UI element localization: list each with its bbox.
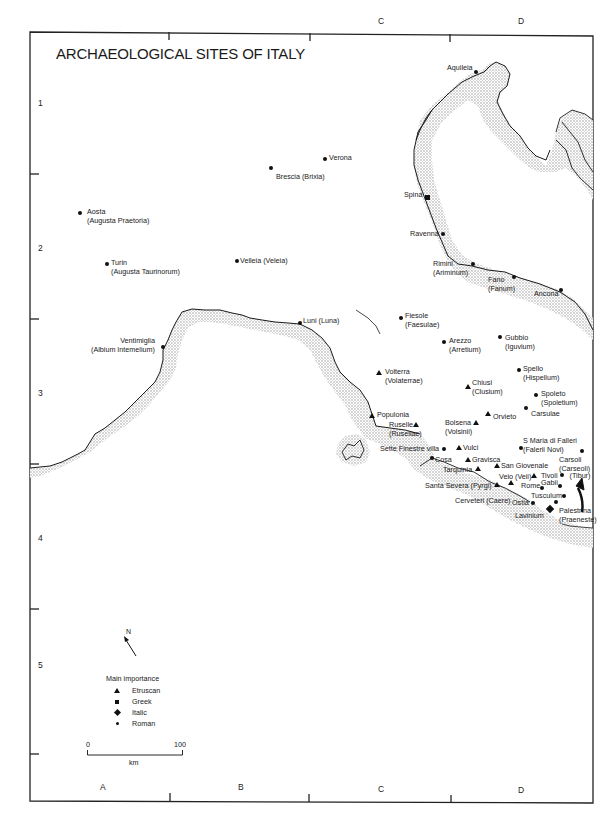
site-ancient-name: (Ariminum) (433, 268, 468, 277)
roman-dot-icon (235, 259, 239, 263)
site-name: Volterra (385, 367, 423, 376)
site-name: Ruselle (389, 420, 422, 429)
site-label: Santa Severa (Pyrgi) (425, 481, 492, 490)
roman-dot-icon (441, 232, 445, 236)
site-label: Rome (521, 481, 540, 490)
site-label: Verona (329, 153, 352, 162)
grid-column-label: A (100, 782, 106, 792)
site-label: Turin(Augusta Taurinorum) (111, 258, 180, 276)
site-name: Spello (523, 364, 559, 373)
site-ancient-name: (Volsinii) (445, 427, 472, 436)
site-name: Vulci (463, 443, 478, 452)
site-label: Spoleto(Spoletium) (541, 389, 578, 407)
site-label: Sette Finestre villa (380, 444, 439, 453)
map-canvas (0, 0, 616, 832)
site-label: Ruselle(Rusellae) (389, 420, 422, 438)
legend-label: Roman (132, 719, 155, 728)
scale-unit: km (129, 758, 139, 767)
site-ancient-name: (Falerii Novi) (523, 445, 577, 454)
site-name: Carsoli (559, 455, 590, 464)
site-label: Ostia (512, 498, 529, 507)
site-ancient-name: (Praeneste) (559, 515, 597, 524)
site-label: Gubbio(Iguvium) (505, 333, 535, 351)
roman-dot-icon (78, 211, 82, 215)
site-ancient-name: (Hispellum) (523, 373, 559, 382)
grid-row-label: 3 (38, 388, 43, 398)
site-ancient-name: (Arretium) (449, 345, 481, 354)
site-name: Ventimiglia (91, 336, 155, 345)
roman-dot-icon (442, 340, 446, 344)
site-name: Tarquinia (443, 465, 472, 474)
site-name: Velleia (Veleia) (240, 256, 288, 265)
grid-column-label: B (238, 782, 244, 792)
scale-end: 100 (174, 740, 186, 749)
roman-dot-icon (562, 494, 566, 498)
site-label: Chiusi(Clusium) (472, 378, 503, 396)
site-name: Rome (521, 481, 540, 490)
etruscan-triangle-icon (508, 480, 514, 485)
legend-label: Greek (132, 697, 152, 706)
site-label: Carsulae (531, 409, 560, 418)
site-name: Ostia (512, 498, 529, 507)
etruscan-triangle-icon (473, 420, 479, 425)
site-label: San Giovenale (501, 461, 548, 470)
north-arrow-icon (120, 632, 144, 662)
site-name: Ancona (534, 289, 558, 298)
site-name: Aquileia (447, 63, 473, 72)
site-label: Vulci (463, 443, 478, 452)
roman-dot-icon (399, 316, 403, 320)
site-name: Palestrina (559, 506, 597, 515)
roman-dot-icon (161, 345, 165, 349)
site-name: Bolsena (445, 418, 472, 427)
roman-dot-icon (580, 449, 584, 453)
etruscan-triangle-icon (475, 466, 481, 471)
site-ancient-name: (Rusellae) (389, 429, 422, 438)
site-ancient-name: (Faesulae) (405, 320, 439, 329)
site-label: Arezzo(Arretium) (449, 336, 481, 354)
site-label: Veio (Veii) (499, 472, 531, 481)
site-name: Ravenna (410, 229, 439, 238)
roman-dot-icon (474, 70, 478, 74)
roman-dot-icon (323, 157, 327, 161)
site-label: Ancona (534, 289, 558, 298)
site-label: Cerveteri (Caere) (455, 496, 511, 505)
roman-dot-icon (498, 335, 502, 339)
site-name: Cosa (435, 455, 452, 464)
roman-dot-icon (442, 447, 446, 451)
site-ancient-name: (Augusta Praetoria) (87, 216, 149, 225)
roman-dot-icon (531, 501, 535, 505)
site-label: Bolsena(Volsinii) (445, 418, 472, 436)
site-ancient-name: (Fanum) (488, 284, 515, 293)
site-name: Lavinium (515, 511, 544, 520)
site-ancient-name: (Clusium) (472, 387, 503, 396)
map-title: ARCHAEOLOGICAL SITES OF ITALY (56, 45, 305, 62)
triangle-icon (114, 688, 120, 693)
roman-dot-icon (105, 262, 109, 266)
site-name: Gubbio (505, 333, 535, 342)
roman-dot-icon (471, 262, 475, 266)
site-label: Rimini(Ariminum) (433, 259, 468, 277)
site-name: Arezzo (449, 336, 481, 345)
roman-dot-icon (298, 321, 302, 325)
site-label: Spina (404, 190, 422, 199)
site-label: Fano(Fanum) (488, 275, 515, 293)
roman-dot-icon (269, 166, 273, 170)
site-ancient-name: (Albium Intemelium) (91, 345, 155, 354)
site-name: San Giovenale (501, 461, 548, 470)
square-icon (115, 700, 119, 704)
etruscan-triangle-icon (465, 384, 471, 389)
grid-column-label: D (518, 16, 524, 26)
grid-row-label: 2 (38, 243, 43, 253)
site-name: Sette Finestre villa (380, 444, 439, 453)
site-ancient-name: (Tibur) (570, 471, 591, 480)
grid-column-label: D (518, 785, 524, 795)
roman-dot-icon (534, 393, 538, 397)
greek-square-icon (425, 195, 430, 200)
grid-row-label: 5 (38, 660, 43, 670)
site-label: Tarquinia (443, 465, 472, 474)
site-label: Brescia (Brixia) (276, 172, 325, 181)
etruscan-triangle-icon (376, 370, 382, 375)
site-label: Tusculum (531, 491, 562, 500)
etruscan-triangle-icon (531, 473, 537, 478)
etruscan-triangle-icon (494, 463, 500, 468)
